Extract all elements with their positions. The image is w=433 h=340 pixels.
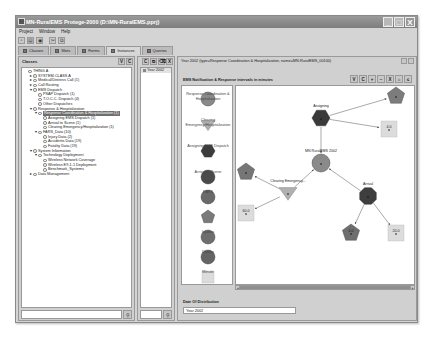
instance-form-panel: Year 2002 (type=Response Coordination & … bbox=[177, 56, 417, 321]
class-tree[interactable]: THING A►SYSTEM-CLASS A►Medical/Distress … bbox=[21, 67, 132, 308]
palette-label: Assigning EMS Dispatch bbox=[182, 144, 234, 149]
tab-classes[interactable]: Classes bbox=[18, 46, 49, 55]
palette-label: Arrival to Scene bbox=[182, 170, 234, 175]
class-icon bbox=[38, 112, 42, 116]
graph-node-min-60[interactable] bbox=[238, 205, 254, 221]
cut-icon[interactable]: ✂ bbox=[49, 37, 56, 44]
class-icon bbox=[43, 168, 47, 172]
close-button[interactable]: X bbox=[405, 17, 415, 27]
graph-node-pent-top[interactable] bbox=[387, 87, 404, 103]
classes-tab-icon bbox=[23, 49, 27, 53]
remove-instance-button[interactable]: X bbox=[166, 58, 173, 65]
instances-panel-header: C ⧉ ⌫ X bbox=[138, 57, 174, 66]
graph-node-min-4[interactable] bbox=[381, 121, 397, 137]
graph-node-clearing[interactable] bbox=[279, 188, 297, 201]
graph-node-rch[interactable] bbox=[312, 154, 330, 172]
copy-instance-button[interactable]: ⧉ bbox=[150, 58, 157, 65]
graph-node-label: Assigning bbox=[313, 104, 329, 108]
class-icon bbox=[33, 173, 37, 177]
toolbar: ▫ ▤ ◉ ✂ ⧉ bbox=[16, 36, 417, 45]
create-class-button[interactable]: C bbox=[126, 58, 133, 65]
palette-label: Injuries bbox=[182, 230, 234, 235]
delete-instance-button[interactable]: ⌫ bbox=[158, 58, 165, 65]
palette-pentagon-icon bbox=[182, 208, 234, 226]
graph-canvas[interactable]: Assigning4.0MN RuralEMS 2002Clearing Eme… bbox=[235, 85, 415, 285]
create-node-button[interactable]: C bbox=[359, 75, 367, 83]
instance-list[interactable]: Year 2002 bbox=[140, 67, 172, 308]
palette-item[interactable]: Response Coordination & Hospitalization bbox=[182, 90, 234, 108]
tab-slots[interactable]: Slots bbox=[50, 46, 76, 55]
view-class-button[interactable]: V bbox=[118, 58, 125, 65]
scroll-left-arrow[interactable]: ◂ bbox=[235, 285, 240, 290]
graph-node-label: 4.0 bbox=[349, 229, 354, 233]
class-icon bbox=[38, 93, 42, 97]
class-icon bbox=[38, 131, 42, 135]
minimize-button[interactable]: _ bbox=[383, 17, 393, 27]
class-find-input[interactable] bbox=[21, 310, 122, 319]
tab-label: Slots bbox=[61, 47, 70, 55]
class-icon bbox=[43, 121, 47, 125]
remove-node-button[interactable]: − bbox=[377, 75, 385, 83]
zoom-button[interactable]: ≤ bbox=[404, 75, 412, 83]
open-project-icon[interactable]: ▤ bbox=[27, 37, 34, 44]
palette-item[interactable]: Injuries bbox=[182, 228, 234, 246]
class-icon bbox=[43, 116, 47, 120]
class-find-bar: ⚲ bbox=[21, 310, 132, 319]
tab-forms[interactable]: Forms bbox=[77, 46, 105, 55]
create-instance-button[interactable]: C bbox=[142, 58, 149, 65]
palette-item[interactable]: Arrival to Scene bbox=[182, 168, 234, 186]
app-icon bbox=[18, 18, 25, 25]
palette-item[interactable]: Assigning EMS Dispatch bbox=[182, 142, 234, 160]
scroll-right-arrow[interactable]: ▸ bbox=[410, 285, 415, 290]
graph-node-assigning[interactable] bbox=[312, 110, 330, 126]
queries-tab-icon bbox=[147, 49, 151, 53]
layout-button[interactable]: ⌂ bbox=[395, 75, 403, 83]
canvas-horizontal-scrollbar[interactable]: ◂ ▸ bbox=[235, 285, 415, 290]
menu-window[interactable]: Window bbox=[39, 28, 55, 36]
form-collapse-button[interactable] bbox=[401, 58, 407, 64]
class-label: Data Management bbox=[38, 172, 69, 177]
class-icon bbox=[33, 149, 37, 153]
graph-title: EMS Notification & Response intervals in… bbox=[183, 78, 273, 82]
graph-node-label: Clearing Emergency... bbox=[270, 179, 305, 183]
new-project-icon[interactable]: ▫ bbox=[18, 37, 25, 44]
node-palette[interactable]: Response Coordination & HospitalizationC… bbox=[181, 85, 233, 285]
tab-instances[interactable]: Instances bbox=[106, 46, 140, 55]
title-bar[interactable]: MN-RuralEMS Protege-2000 (D:\MN-RuralEMS… bbox=[16, 16, 417, 28]
tab-label: Forms bbox=[88, 47, 99, 55]
instance-find-input[interactable] bbox=[140, 310, 162, 319]
palette-label: Minute bbox=[182, 270, 234, 275]
class-icon bbox=[43, 140, 47, 144]
delete-node-button[interactable]: X bbox=[386, 75, 394, 83]
view-node-button[interactable]: V bbox=[350, 75, 358, 83]
palette-item[interactable]: Clearing Emergency/Hospitalization bbox=[182, 116, 234, 134]
menu-project[interactable]: Project bbox=[19, 28, 33, 36]
binoculars-icon[interactable]: ⚲ bbox=[123, 310, 132, 319]
instance-item[interactable]: Year 2002 bbox=[141, 68, 171, 73]
graph-node-min-20[interactable] bbox=[388, 225, 404, 241]
date-of-distribution-field[interactable]: Year 2002 bbox=[183, 307, 296, 314]
palette-item[interactable]: Minute bbox=[182, 268, 234, 286]
binoculars-icon[interactable]: ⚲ bbox=[163, 310, 172, 319]
class-icon bbox=[28, 70, 32, 74]
date-of-distribution-label: Date Of Distribution bbox=[183, 300, 219, 304]
palette-item[interactable]: Deaths bbox=[182, 248, 234, 266]
form-close-button[interactable] bbox=[408, 58, 414, 64]
maximize-button[interactable]: □ bbox=[394, 17, 404, 27]
palette-item[interactable]: FARS bbox=[182, 188, 234, 206]
tab-label: Queries bbox=[153, 47, 167, 55]
tab-label: Classes bbox=[29, 47, 43, 55]
graph-node-arrival[interactable] bbox=[360, 188, 377, 205]
instance-icon bbox=[143, 69, 146, 72]
menu-help[interactable]: Help bbox=[61, 28, 70, 36]
slots-tab-icon bbox=[55, 49, 59, 53]
palette-item[interactable] bbox=[182, 208, 234, 226]
class-tree-node[interactable]: ►Data Management bbox=[24, 172, 131, 177]
instances-panel: C ⧉ ⌫ X Year 2002 ⚲ bbox=[137, 56, 175, 321]
graph-node-pent-left[interactable] bbox=[237, 163, 254, 179]
tab-queries[interactable]: Queries bbox=[142, 46, 173, 55]
save-project-icon[interactable]: ◉ bbox=[36, 37, 43, 44]
copy-icon[interactable]: ⧉ bbox=[58, 37, 65, 44]
add-node-button[interactable]: + bbox=[368, 75, 376, 83]
class-icon bbox=[33, 79, 37, 83]
